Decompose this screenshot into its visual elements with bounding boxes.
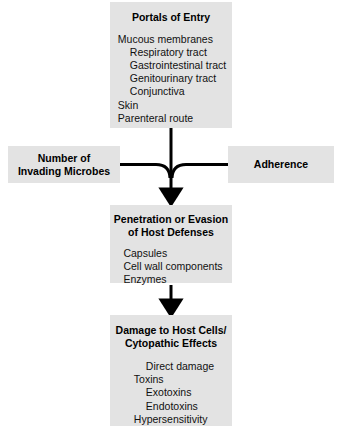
box-damage-to-host-cells: Damage to Host Cells/ Cytopathic Effects… <box>110 315 232 426</box>
list-item: Conjunctiva <box>118 85 226 98</box>
box-portals-of-entry-list: Mucous membranes Respiratory tract Gastr… <box>118 33 226 125</box>
list-item: Exotoxins <box>134 386 214 399</box>
list-item: Hypersensitivity <box>134 413 214 426</box>
box-portals-of-entry: Portals of Entry Mucous membranes Respir… <box>110 2 232 128</box>
box-number-of-invading-microbes: Number of Invading Microbes <box>8 146 120 183</box>
box-penetration-or-evasion-list: Capsules Cell wall components Enzymes <box>123 247 222 287</box>
list-item: Respiratory tract <box>118 46 226 59</box>
list-item: Direct damage <box>134 360 214 373</box>
list-item: Genitourinary tract <box>118 72 226 85</box>
box-penetration-or-evasion-title: Penetration or Evasion of Host Defenses <box>110 213 232 238</box>
box-number-of-invading-microbes-title: Number of Invading Microbes <box>18 152 110 177</box>
box-damage-to-host-cells-list: Direct damage Toxins Exotoxins Endotoxin… <box>134 360 214 426</box>
list-item: Toxins <box>134 373 214 386</box>
diagram-canvas: Portals of Entry Mucous membranes Respir… <box>0 0 341 428</box>
box-damage-to-host-cells-title: Damage to Host Cells/ Cytopathic Effects <box>110 324 232 349</box>
box-adherence-title: Adherence <box>254 158 308 171</box>
box-penetration-or-evasion: Penetration or Evasion of Host Defenses … <box>110 205 232 283</box>
connector-adherence-curve <box>172 165 228 179</box>
list-item: Skin <box>118 99 226 112</box>
list-item: Capsules <box>123 247 222 260</box>
list-item: Enzymes <box>123 273 222 286</box>
connector-number-curve <box>120 165 170 179</box>
list-item: Parenteral route <box>118 112 226 125</box>
list-item: Cell wall components <box>123 260 222 273</box>
box-portals-of-entry-title: Portals of Entry <box>110 11 232 24</box>
box-adherence: Adherence <box>228 146 334 183</box>
list-item: Mucous membranes <box>118 33 226 46</box>
list-item: Endotoxins <box>134 400 214 413</box>
list-item: Gastrointestinal tract <box>118 59 226 72</box>
